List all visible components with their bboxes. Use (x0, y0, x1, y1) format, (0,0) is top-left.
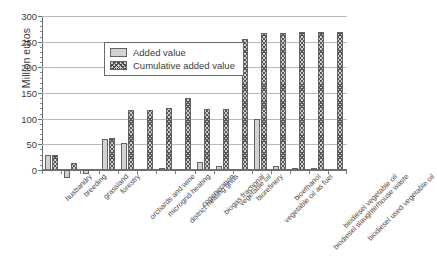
bar-group (156, 16, 175, 170)
bar-group (328, 16, 347, 170)
bar-group (137, 16, 156, 170)
bar-cumulative-added-value (109, 138, 115, 170)
bar-cumulative-added-value (52, 155, 58, 170)
bar-added-value (45, 155, 51, 170)
bar-group (233, 16, 252, 170)
bar-group (290, 16, 309, 170)
bar-cumulative-added-value (204, 109, 210, 170)
y-axis-tick-label: 250 (21, 36, 37, 47)
legend-item-added-value: Added value (110, 46, 235, 59)
bar-group (61, 16, 80, 170)
legend-label-cumulative-added-value: Cumulative added value (133, 60, 235, 71)
bar-cumulative-added-value (185, 98, 191, 170)
y-axis-tick-label: 150 (21, 88, 37, 99)
bar-group (80, 16, 99, 170)
chart-legend: Added value Cumulative added value (104, 42, 244, 76)
legend-item-cumulative-added-value: Cumulative added value (110, 59, 235, 72)
y-axis-tick-label: 200 (21, 62, 37, 73)
x-axis-labels: husbandrybreedinggrasslandforestryorchar… (42, 172, 347, 272)
bar-group (99, 16, 118, 170)
legend-label-added-value: Added value (133, 47, 186, 58)
bar-group (214, 16, 233, 170)
bar-group (195, 16, 214, 170)
bar-series-layer (42, 16, 347, 170)
x-axis-line (42, 169, 347, 170)
y-axis-tick-label: 100 (21, 113, 37, 124)
bar-cumulative-added-value (318, 32, 324, 170)
y-axis-tick-label: 50 (26, 139, 37, 150)
bar-cumulative-added-value (337, 32, 343, 170)
legend-swatch-cumulative-added-value (110, 61, 127, 70)
bar-cumulative-added-value (223, 109, 229, 170)
bar-cumulative-added-value (128, 110, 134, 170)
bar-cumulative-added-value (261, 33, 267, 170)
bar-group (118, 16, 137, 170)
bar-group (309, 16, 328, 170)
bar-cumulative-added-value (147, 110, 153, 170)
bar-cumulative-added-value (166, 108, 172, 170)
y-axis-tick-label: 0 (32, 165, 37, 176)
plot-area: 050100150200250300 Added value Cumulativ… (42, 16, 347, 170)
bar-cumulative-added-value (299, 32, 305, 170)
bar-added-value (254, 119, 260, 170)
bar-group (252, 16, 271, 170)
legend-swatch-added-value (110, 48, 127, 57)
bar-cumulative-added-value (280, 33, 286, 170)
y-axis-tick-label: 300 (21, 11, 37, 22)
bar-added-value (102, 139, 108, 170)
bar-group (175, 16, 194, 170)
bar-group (271, 16, 290, 170)
bar-group (42, 16, 61, 170)
bar-added-value (121, 143, 127, 170)
